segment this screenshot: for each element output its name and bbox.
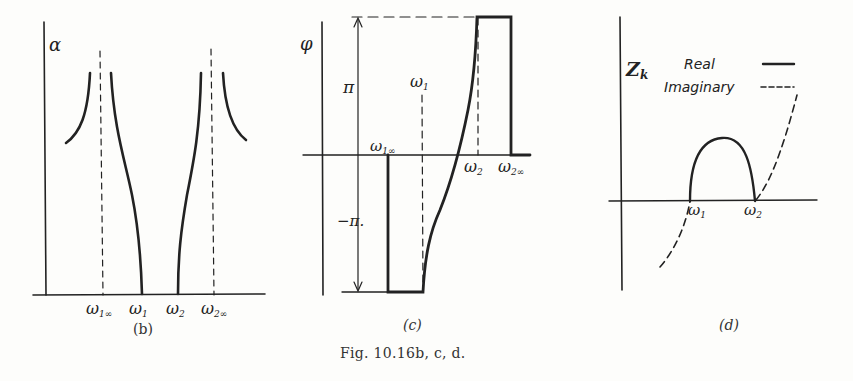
panel-b-tick-w2: ω2 [166, 301, 185, 319]
panel-b-curve-w2 [178, 73, 201, 294]
panel-b-graphics [33, 22, 265, 295]
panel-d-x-axis [609, 200, 817, 201]
panel-c-tick-w2inf: ω2∞ [498, 159, 524, 177]
panel-c-w1-marker [422, 95, 423, 290]
panel-d-real-curve [690, 138, 755, 201]
panel-b-tick-w1: ω1 [129, 301, 148, 319]
figure-10-16: α ω1∞ ω1 ω2 ω2∞ (b) φ π −π. ω1∞ ω1 ω2 ω2… [0, 0, 853, 381]
panel-d-imag-curve-high [756, 95, 797, 200]
panel-d-tick-w2: ω2 [744, 203, 762, 220]
panel-d-y-label: Zk [626, 60, 648, 81]
panel-c-tick-w1inf: ω1∞ [370, 139, 395, 156]
panel-b-curve-right [223, 73, 246, 140]
panel-b-asymptote-w2inf [211, 49, 214, 295]
panel-c-y-axis [322, 22, 323, 295]
panel-b-caption: (b) [133, 322, 153, 336]
panel-b-tick-w2inf: ω2∞ [201, 301, 227, 319]
figure-caption: Fig. 10.16b, c, d. [340, 346, 466, 360]
legend-imaginary-label: Imaginary [664, 80, 735, 94]
panel-c-tick-w1: ω1 [410, 74, 429, 92]
panel-b-curve-left [66, 73, 90, 143]
panel-b-y-axis [44, 22, 46, 295]
panel-d-y-axis [620, 17, 622, 290]
panel-b-y-label: α [49, 36, 61, 54]
panel-c-graphics [303, 17, 530, 295]
panel-d-caption: (d) [719, 318, 739, 332]
panel-c-tick-w2: ω2 [464, 159, 483, 177]
panel-d-imag-curve-low [660, 201, 690, 267]
panel-c-minus-pi-mark: −π. [337, 214, 364, 229]
panel-b-curve-w1 [111, 73, 142, 294]
panel-b-x-axis [33, 294, 265, 295]
panel-b-asymptote-w1inf [100, 51, 103, 295]
panel-c-pi-mark: π [343, 79, 354, 96]
panel-c-y-label: φ [300, 35, 313, 53]
panel-c-caption: (c) [403, 318, 422, 332]
legend-real-label: Real [684, 57, 715, 71]
panel-d-tick-w1: ω1 [688, 203, 706, 220]
panel-b-tick-w1inf: ω1∞ [86, 301, 112, 319]
